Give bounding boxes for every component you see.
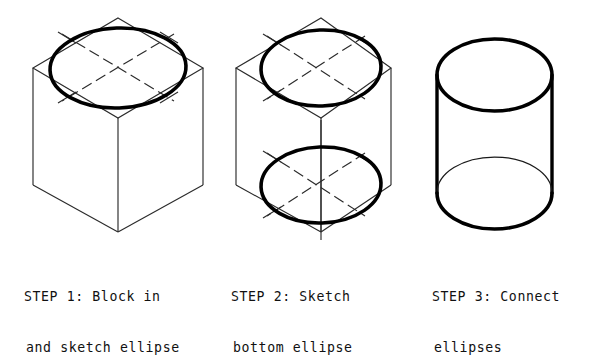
step-1-drawing bbox=[0, 0, 215, 250]
step-3-drawing bbox=[405, 0, 606, 250]
step-3-caption: STEP 3: Connect ellipses bbox=[432, 254, 560, 359]
step-3-caption-line-1: STEP 3: Connect bbox=[432, 288, 560, 305]
step-1-caption: STEP 1: Block in and sketch ellipse bbox=[24, 254, 180, 359]
cylinder-bottom-hidden-arc bbox=[437, 157, 552, 193]
step-2-drawing bbox=[215, 0, 405, 250]
cube-bottom-left-edge bbox=[33, 185, 118, 232]
step-2-top-ellipse bbox=[260, 28, 383, 108]
top-face-center-lines bbox=[267, 36, 365, 99]
step-2-caption: STEP 2: Sketch bottom ellipse bbox=[231, 254, 353, 359]
step-1-panel: STEP 1: Block in and sketch ellipse bbox=[0, 0, 215, 310]
step-2-panel: STEP 2: Sketch bottom ellipse bbox=[215, 0, 405, 310]
step-3-caption-line-2: ellipses bbox=[434, 339, 560, 356]
cylinder-top-ellipse bbox=[437, 39, 552, 111]
top-face-center-lines bbox=[62, 34, 174, 101]
isometric-cube bbox=[236, 18, 391, 232]
step-3-panel: STEP 3: Connect ellipses bbox=[405, 0, 606, 310]
cylinder-body bbox=[437, 75, 552, 193]
step-2-caption-line-2: bottom ellipse bbox=[233, 339, 353, 356]
cube-bottom-right-edge bbox=[118, 185, 203, 232]
step-2-caption-line-1: STEP 2: Sketch bbox=[231, 288, 353, 305]
step-1-caption-line-1: STEP 1: Block in bbox=[24, 288, 180, 305]
cylinder-bottom-visible-arc bbox=[437, 193, 552, 229]
step-1-caption-line-2: and sketch ellipse bbox=[26, 339, 180, 356]
